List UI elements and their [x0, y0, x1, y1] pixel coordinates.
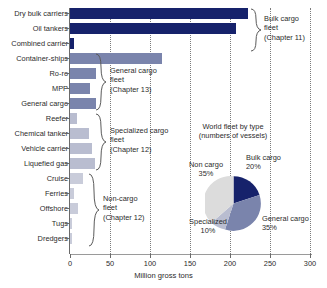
category-label-chemical-tanker: Chemical tanker [0, 129, 68, 138]
bar-reefer [70, 113, 77, 124]
annotation-specialized-line3: (Chapter 12) [110, 145, 168, 154]
bar-cruise [70, 173, 83, 184]
category-label-mpp: MPP [0, 84, 68, 93]
category-label-liquefied-gas: Liquefied gas [0, 159, 68, 168]
category-label-ro-ro: Ro-ro [0, 69, 68, 78]
gridline-300 [310, 8, 311, 254]
x-tick-50 [110, 254, 111, 258]
pie-label-bulk-cargo-value: 20% [246, 162, 281, 171]
x-tick-200 [230, 254, 231, 258]
pie-label-non-cargo-value: 35% [180, 169, 232, 178]
bar-oil-tankers [70, 23, 236, 34]
y-axis-line [69, 8, 70, 254]
annotation-noncargo-line2: fleet [103, 203, 145, 212]
bar-offshore [70, 203, 78, 214]
x-axis-line [70, 254, 312, 255]
bar-vehicle-carrier [70, 143, 92, 154]
annotation-bulk-line1: Bulk cargo [264, 14, 305, 23]
world-fleet-chart: Dry bulk carriers Oil tankers Combined c… [0, 0, 327, 288]
annotation-bulk-line2: fleet [264, 23, 305, 32]
bar-ro-ro [70, 68, 96, 79]
bar-general-cargo [70, 98, 96, 109]
annotation-bulk-line3: (Chapter 11) [264, 33, 305, 42]
pie-label-specialized-name: Specialized [182, 217, 234, 226]
category-label-combined-carrier: Combined carrier [0, 39, 68, 48]
annotation-bulk-cargo-fleet: Bulk cargo fleet (Chapter 11) [264, 14, 305, 42]
annotation-general-line2: fleet [110, 75, 157, 84]
bracket-general-cargo [95, 53, 107, 111]
category-label-vehicle-carrier: Vehicle carrier [0, 144, 68, 153]
annotation-general-line3: (Chapter 13) [110, 85, 157, 94]
annotation-noncargo-line3: (Chapter 12) [103, 213, 145, 222]
pie-label-specialized: Specialized 10% [182, 217, 234, 235]
bar-tugs [70, 218, 72, 229]
inset-pie-title: World fleet by type (numbers of vessels) [168, 122, 298, 141]
annotation-noncargo-line1: Non-cargo [103, 194, 145, 203]
annotation-general-line1: General cargo [110, 66, 157, 75]
x-tick-300 [310, 254, 311, 258]
x-tick-0 [70, 254, 71, 258]
bar-liquefied-gas [70, 158, 95, 169]
category-label-container-ships: Container-ships [0, 54, 68, 63]
category-label-oil-tankers: Oil tankers [0, 24, 68, 33]
pie-label-non-cargo: Non cargo 35% [180, 160, 232, 178]
category-axis-labels: Dry bulk carriers Oil tankers Combined c… [0, 0, 68, 288]
pie-label-bulk-cargo: Bulk cargo 20% [246, 153, 281, 171]
annotation-non-cargo-fleet: Non-cargo fleet (Chapter 12) [103, 194, 145, 222]
bracket-non-cargo [88, 173, 100, 247]
category-label-dry-bulk-carriers: Dry bulk carriers [0, 9, 68, 18]
x-tick-label-150: 150 [184, 259, 196, 268]
category-label-general-cargo: General cargo [0, 99, 68, 108]
annotation-specialized-line1: Specialized cargo [110, 126, 168, 135]
x-tick-label-200: 200 [224, 259, 236, 268]
pie-label-general-cargo: General cargo 35% [262, 214, 309, 232]
bar-dredgers [70, 233, 72, 244]
pie-label-non-cargo-name: Non cargo [180, 160, 232, 169]
pie-label-general-cargo-value: 35% [262, 223, 309, 232]
category-label-reefer: Reefer [0, 114, 68, 123]
x-tick-label-300: 300 [304, 259, 316, 268]
bar-ferries [70, 188, 74, 199]
bracket-specialized-cargo [95, 113, 107, 171]
bar-container-ships [70, 53, 162, 64]
x-tick-label-100: 100 [144, 259, 156, 268]
x-tick-label-50: 50 [106, 259, 114, 268]
category-label-cruise: Cruise [0, 174, 68, 183]
bar-chemical-tanker [70, 128, 89, 139]
x-tick-250 [270, 254, 271, 258]
x-tick-label-0: 0 [68, 259, 72, 268]
bar-combined-carrier [70, 38, 74, 49]
inset-pie-title-line1: World fleet by type [168, 122, 298, 131]
pie-label-specialized-value: 10% [182, 226, 234, 235]
category-label-ferries: Ferries [0, 189, 68, 198]
category-label-tugs: Tugs [0, 219, 68, 228]
bar-mpp [70, 83, 90, 94]
category-label-dredgers: Dredgers [0, 234, 68, 243]
pie-label-bulk-cargo-name: Bulk cargo [246, 153, 281, 162]
bar-dry-bulk-carriers [70, 8, 248, 19]
pie-label-general-cargo-name: General cargo [262, 214, 309, 223]
x-axis-title: Million gross tons [0, 271, 327, 280]
annotation-general-cargo-fleet: General cargo fleet (Chapter 13) [110, 66, 157, 94]
category-label-offshore: Offshore [0, 204, 68, 213]
x-tick-150 [190, 254, 191, 258]
bracket-bulk-cargo [250, 8, 262, 52]
annotation-specialized-line2: fleet [110, 135, 168, 144]
inset-pie-title-line2: (numbers of vessels) [168, 131, 298, 140]
x-tick-label-250: 250 [264, 259, 276, 268]
x-tick-100 [150, 254, 151, 258]
annotation-specialized-cargo-fleet: Specialized cargo fleet (Chapter 12) [110, 126, 168, 154]
